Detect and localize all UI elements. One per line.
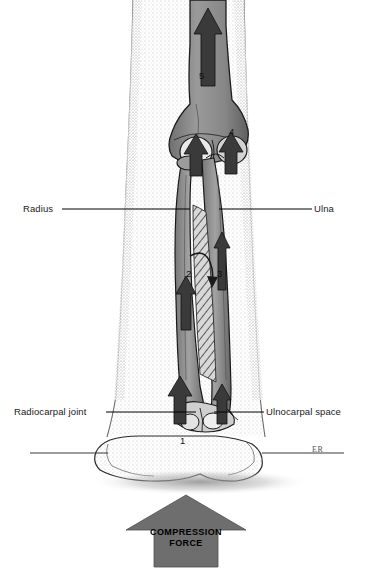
marker-5: 5 xyxy=(199,70,204,81)
label-ulnocarpal-space: Ulnocarpal space xyxy=(266,406,341,417)
artist-signature: ER xyxy=(312,445,323,454)
marker-4: 4 xyxy=(229,126,234,137)
ground-shadow xyxy=(90,469,310,495)
label-radiocarpal-joint: Radiocarpal joint xyxy=(14,406,86,417)
compression-force-line2: FORCE xyxy=(0,538,372,549)
forearm-illustration xyxy=(0,0,372,583)
compression-force-label: COMPRESSION FORCE xyxy=(0,527,372,549)
label-radius: Radius xyxy=(23,203,53,214)
marker-2: 2 xyxy=(186,268,191,279)
compression-force-line1: COMPRESSION xyxy=(0,527,372,538)
marker-3: 3 xyxy=(217,268,222,279)
marker-1: 1 xyxy=(180,435,185,446)
anatomical-figure: Radius Ulna Radiocarpal joint Ulnocarpal… xyxy=(0,0,372,583)
label-ulna: Ulna xyxy=(314,203,334,214)
